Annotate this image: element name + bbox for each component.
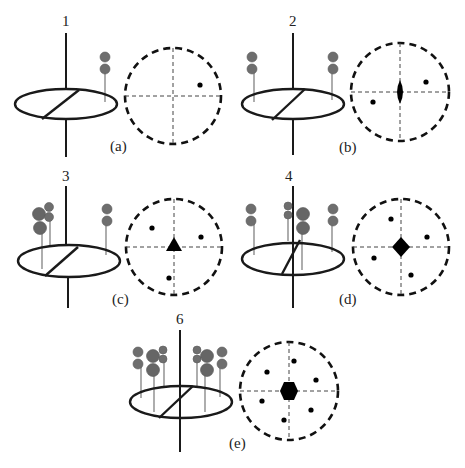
projection-point (313, 377, 318, 382)
object-sphere (328, 204, 338, 214)
threefold-triangle-symbol (166, 237, 182, 251)
projection-point (149, 225, 154, 230)
object-sphere (102, 216, 112, 226)
object-sphere (33, 208, 46, 221)
projection-point (308, 407, 313, 412)
projection-point (424, 234, 429, 239)
object-sphere (297, 208, 310, 221)
panel-label: (e) (229, 435, 246, 452)
sixfold-hexagon-symbol (280, 382, 298, 400)
panel-label: (c) (112, 291, 129, 308)
panel-label: (b) (339, 139, 357, 156)
object-sphere (328, 64, 338, 74)
ring-diameter (282, 240, 300, 274)
panel-label: (d) (339, 291, 357, 308)
object-sphere (217, 347, 227, 357)
object-sphere (133, 347, 143, 357)
panel-d-3d-model: 4 (242, 168, 344, 308)
panel-d: 4 (242, 168, 449, 308)
twofold-lens-symbol (397, 80, 403, 104)
object-sphere (193, 355, 201, 363)
object-sphere (45, 213, 54, 222)
object-sphere (246, 216, 256, 226)
ring-diameter (45, 247, 78, 276)
projection-point (198, 234, 203, 239)
panel-b-projection (351, 43, 449, 141)
projection-point (166, 275, 171, 280)
object-sphere (45, 203, 54, 212)
object-sphere (159, 355, 167, 363)
projection-point (259, 398, 264, 403)
ring-diameter (272, 89, 305, 120)
ring-diameter (42, 90, 79, 119)
ring-diameter (159, 386, 193, 418)
panel-e-projection (240, 342, 338, 440)
object-sphere (247, 64, 257, 74)
object-sphere (201, 350, 214, 363)
panel-b-3d-model: 2 (242, 13, 344, 155)
panel-e: 6 (130, 311, 338, 452)
axis-order-label: 3 (62, 168, 70, 184)
axis-order-label: 6 (176, 311, 184, 327)
projection-point (388, 216, 393, 221)
object-sphere (284, 211, 292, 219)
panel-c: 3 (c) (18, 168, 222, 308)
rotation-axes-figure: 1 (a) 2 (0, 0, 465, 468)
projection-point (197, 82, 202, 87)
object-sphere (102, 204, 112, 214)
panel-c-projection (126, 199, 222, 295)
axis-order-label: 4 (285, 168, 293, 184)
projection-point (408, 272, 413, 277)
axis-order-label: 1 (62, 13, 70, 29)
object-sphere (100, 52, 110, 62)
object-sphere (328, 52, 338, 62)
object-sphere (328, 216, 338, 226)
axis-order-label: 2 (289, 13, 297, 29)
object-sphere (147, 350, 160, 363)
projection-point (423, 79, 428, 84)
object-sphere (133, 359, 143, 369)
object-sphere (193, 346, 201, 354)
panel-c-3d-model: 3 (18, 168, 120, 308)
object-sphere (297, 222, 310, 235)
object-sphere (34, 222, 47, 235)
object-sphere (246, 204, 256, 214)
object-sphere (217, 359, 227, 369)
object-sphere (284, 202, 292, 210)
object-sphere (100, 64, 110, 74)
object-sphere (159, 346, 167, 354)
projection-point (281, 417, 286, 422)
panel-label: (a) (110, 138, 127, 155)
projection-point (264, 369, 269, 374)
rotation-ring (18, 245, 120, 277)
projection-point (371, 255, 376, 260)
panel-d-projection (353, 199, 449, 295)
panel-a: 1 (a) (15, 13, 221, 157)
rotation-ring (242, 89, 344, 119)
panel-b: 2 (b) (242, 13, 449, 156)
rotation-ring (15, 89, 117, 119)
fourfold-square-symbol (392, 237, 410, 257)
object-sphere (247, 52, 257, 62)
panel-a-projection (125, 48, 221, 144)
panel-a-3d-model: 1 (15, 13, 117, 157)
projection-point (291, 358, 296, 363)
object-sphere (147, 364, 160, 377)
object-sphere (201, 364, 214, 377)
panel-e-3d-model: 6 (130, 311, 232, 452)
projection-point (370, 99, 375, 104)
